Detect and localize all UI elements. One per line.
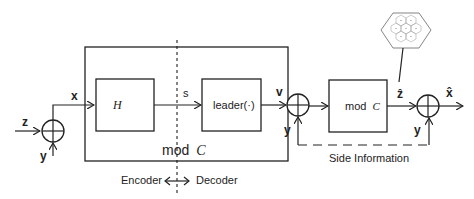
label-z: z xyxy=(22,115,28,129)
label-xhat: x̂ xyxy=(446,86,453,100)
adder-right xyxy=(417,95,439,117)
label-s: s xyxy=(183,87,189,99)
label-x: x xyxy=(71,89,78,103)
outer-mod-label: mod C xyxy=(162,142,206,158)
label-y-right: y xyxy=(414,123,421,137)
block-diagram: z y x mod C H s leader(·) Encoder Decode… xyxy=(0,0,474,199)
block-H xyxy=(96,79,154,131)
label-y-left: y xyxy=(40,149,47,163)
label-v: v xyxy=(276,85,283,99)
label-side-information: Side Information xyxy=(329,152,409,164)
label-leader: leader(·) xyxy=(213,99,255,111)
label-encoder: Encoder xyxy=(121,174,162,186)
adder-left xyxy=(42,120,64,142)
label-mod-right: mod C xyxy=(345,100,380,112)
label-H: H xyxy=(112,98,123,112)
input-z: z xyxy=(15,115,40,131)
hexagonal-lattice-icon xyxy=(381,13,431,48)
label-y-middle: y xyxy=(284,123,291,137)
label-zhat: ẑ xyxy=(397,87,403,101)
label-decoder: Decoder xyxy=(196,174,238,186)
lattice-pointer-line xyxy=(399,48,403,82)
adder-middle xyxy=(287,94,309,116)
signal-x-line xyxy=(53,105,94,120)
